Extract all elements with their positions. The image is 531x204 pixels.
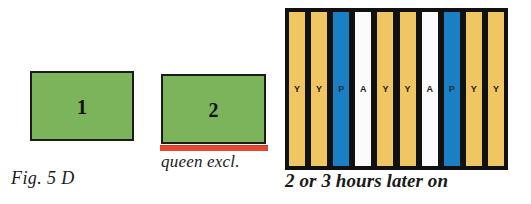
figure-caption: Fig. 5 D (11, 168, 75, 189)
frame-panel: YYPAYYAPYY (285, 8, 508, 170)
frame-2-letter: Y (311, 85, 327, 94)
frame-6-letter: Y (400, 85, 416, 94)
frame-10-letter: Y (488, 85, 504, 94)
frame-9: Y (465, 12, 483, 166)
frame-2: Y (310, 12, 328, 166)
frame-3: P (332, 12, 350, 166)
hive-box-1: 1 (30, 71, 134, 141)
frame-4: A (354, 12, 372, 166)
frame-8: P (443, 12, 461, 166)
frame-8-letter: P (444, 85, 460, 94)
hive-box-2-number: 2 (209, 100, 219, 120)
frame-panel-caption: 2 or 3 hours later on (285, 170, 448, 192)
frame-5: Y (376, 12, 394, 166)
frame-1: Y (288, 12, 306, 166)
frame-6: Y (399, 12, 417, 166)
frame-10: Y (487, 12, 505, 166)
hive-box-2: 2 (161, 74, 266, 144)
figure-5d: 1 2 queen excl. Fig. 5 D YYPAYYAPYY 2 or… (0, 0, 531, 204)
frame-7: A (421, 12, 439, 166)
hive-box-group: 1 2 queen excl. Fig. 5 D (0, 0, 280, 204)
frame-7-letter: A (422, 85, 438, 94)
frame-3-letter: P (333, 85, 349, 94)
queen-excluder-bar (160, 145, 268, 151)
frame-4-letter: A (355, 85, 371, 94)
frame-1-letter: Y (289, 85, 305, 94)
hive-box-1-number: 1 (77, 97, 87, 117)
queen-excluder-label: queen excl. (161, 152, 240, 172)
frame-5-letter: Y (377, 85, 393, 94)
frame-9-letter: Y (466, 85, 482, 94)
